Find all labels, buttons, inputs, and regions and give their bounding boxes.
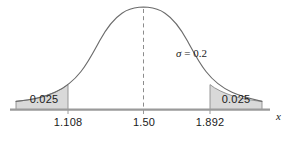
x-axis-label: x — [276, 110, 281, 122]
tick-label-mean: 1.50 — [120, 116, 168, 128]
normal-distribution-figure: 0.025 0.025 σ = 0.2 1.108 1.50 1.892 x — [0, 0, 293, 144]
tick-label-upper-bound: 1.892 — [186, 116, 234, 128]
sigma-annotation: σ = 0.2 — [176, 47, 207, 59]
right-tail-area-label: 0.025 — [212, 93, 260, 105]
sigma-value: = 0.2 — [181, 47, 206, 59]
left-tail-area-label: 0.025 — [20, 93, 68, 105]
normal-curve — [16, 7, 262, 101]
tick-label-lower-bound: 1.108 — [44, 116, 92, 128]
